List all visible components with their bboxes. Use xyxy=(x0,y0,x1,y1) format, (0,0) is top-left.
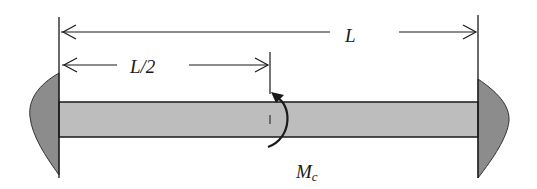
beam xyxy=(59,102,478,137)
right-fixed-support xyxy=(478,79,509,178)
label-L-half: L/2 xyxy=(129,56,156,77)
label-L: L xyxy=(344,25,356,46)
dimension-L-half: L/2 xyxy=(62,56,268,77)
left-fixed-support xyxy=(30,73,59,175)
dimension-L: L xyxy=(61,25,476,46)
beam-diagram: L L/2 Mc xyxy=(0,0,537,189)
label-Mc: Mc xyxy=(295,161,318,184)
